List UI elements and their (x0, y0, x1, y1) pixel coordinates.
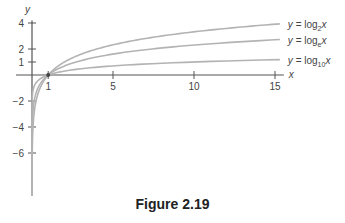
log-chart: yx151015421−2−4−6y = log2xy = logexy = l… (0, 0, 345, 223)
y-tick-label: 4 (18, 18, 24, 29)
y-tick-label: −4 (13, 122, 25, 133)
point-1-0 (46, 73, 50, 77)
x-tick-label: 15 (269, 81, 281, 92)
x-tick-label: 10 (188, 81, 200, 92)
legend-label-log10: y = log10x (287, 55, 332, 68)
y-axis-label: y (24, 4, 31, 15)
curve-log10 (32, 60, 280, 196)
figure-caption: Figure 2.19 (0, 196, 345, 212)
x-tick-label: 5 (110, 81, 116, 92)
x-tick-label: 1 (45, 81, 51, 92)
legend-label-loge: y = logex (287, 35, 328, 48)
y-tick-label: −6 (13, 148, 25, 159)
y-tick-label: −2 (13, 96, 25, 107)
curve-log2 (32, 24, 280, 196)
x-axis-label: x (288, 69, 295, 80)
legend-label-log2: y = log2x (287, 19, 328, 32)
y-tick-label: 2 (18, 44, 24, 55)
y-tick-label: 1 (18, 57, 24, 68)
